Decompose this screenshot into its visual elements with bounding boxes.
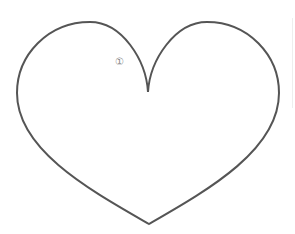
circled-number-label: ① [113, 56, 125, 68]
heart-outline [17, 22, 279, 224]
heart-canvas [0, 0, 295, 234]
edge-mark [292, 18, 293, 108]
